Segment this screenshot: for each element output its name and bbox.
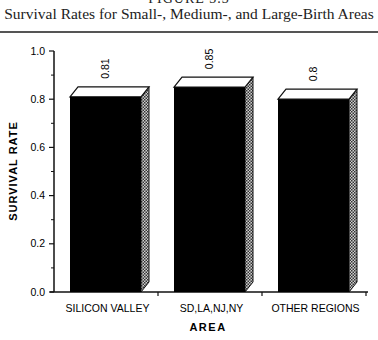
y-tick-label: 0.0	[30, 286, 45, 298]
bars: 0.81SILICON VALLEY0.85SD,LA,NJ,NY0.8OTHE…	[66, 49, 360, 314]
y-tick-label: 1.0	[30, 45, 45, 57]
value-label: 0.85	[204, 49, 216, 70]
value-label: 0.8	[308, 66, 320, 81]
bar: 0.81SILICON VALLEY	[66, 58, 150, 314]
y-tick-label: 0.6	[30, 141, 45, 153]
x-axis-label: AREA	[189, 321, 226, 333]
y-axis-label: SURVIVAL RATE	[7, 121, 19, 221]
y-tick-label: 0.4	[30, 189, 45, 201]
x-axis	[50, 292, 368, 296]
bar: 0.8OTHER REGIONS	[271, 66, 359, 314]
y-tick-label: 0.8	[30, 93, 45, 105]
category-label: SILICON VALLEY	[66, 302, 150, 314]
category-label: OTHER REGIONS	[271, 302, 359, 314]
bar: 0.85SD,LA,NJ,NY	[174, 49, 253, 314]
y-axis: 0.00.20.40.60.81.0	[30, 45, 54, 298]
category-label: SD,LA,NJ,NY	[180, 302, 244, 314]
value-label: 0.81	[100, 58, 112, 79]
bar-chart: 0.00.20.40.60.81.0 0.81SILICON VALLEY0.8…	[0, 0, 378, 340]
y-tick-label: 0.2	[30, 237, 45, 249]
